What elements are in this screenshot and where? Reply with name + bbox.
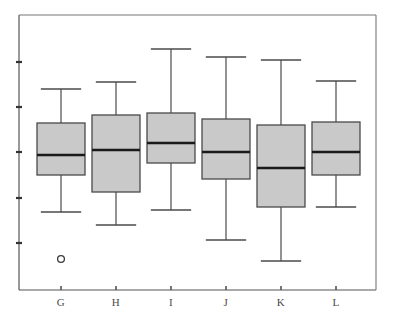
x-label-j: J	[224, 296, 229, 308]
boxplot-figure: GHIJKL	[0, 0, 397, 325]
box-rect-i	[147, 113, 195, 163]
x-label-k: K	[277, 296, 285, 308]
x-label-h: H	[112, 296, 120, 308]
box-group-g	[37, 89, 85, 212]
box-rect-k	[257, 125, 305, 207]
x-axis-labels: GHIJKL	[57, 296, 340, 308]
box-group-i	[147, 49, 195, 210]
box-group-j	[202, 57, 250, 240]
box-series	[37, 49, 360, 261]
box-rect-l	[312, 122, 360, 175]
x-label-g: G	[57, 296, 65, 308]
x-label-i: I	[169, 296, 173, 308]
box-group-h	[92, 82, 140, 225]
box-group-l	[312, 81, 360, 207]
box-rect-h	[92, 115, 140, 192]
box-group-k	[257, 60, 305, 261]
boxplot-canvas: GHIJKL	[0, 0, 397, 325]
box-rect-j	[202, 119, 250, 179]
outlier-series	[58, 256, 65, 263]
outlier-g-0	[58, 256, 65, 263]
box-rect-g	[37, 123, 85, 175]
x-label-l: L	[332, 296, 339, 308]
